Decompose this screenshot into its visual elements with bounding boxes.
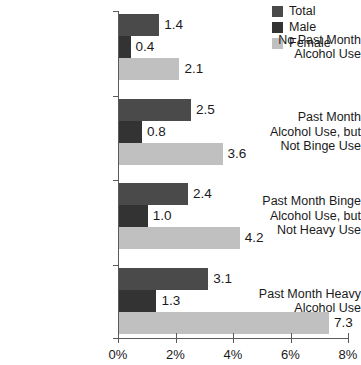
x-tick-label-4%: 4% [224, 347, 243, 362]
bar-female-2 [119, 143, 223, 165]
plot-area: 1.40.42.12.50.83.62.41.04.23.11.37.3 0%2… [118, 11, 348, 338]
bar-total-2 [119, 99, 191, 121]
bar-value-total-1: 1.4 [164, 14, 183, 36]
x-tick-label-2%: 2% [166, 347, 185, 362]
bar-value-female-3: 4.2 [245, 227, 264, 249]
bar-value-total-3: 2.4 [193, 183, 212, 205]
y-tick-0 [113, 11, 119, 12]
y-tick-1 [113, 96, 119, 97]
bar-value-total-4: 3.1 [213, 268, 232, 290]
bar-male-2 [119, 121, 142, 143]
x-tick-label-8%: 8% [339, 347, 358, 362]
bar-male-3 [119, 205, 148, 227]
bar-value-male-1: 0.4 [136, 36, 155, 58]
bar-male-4 [119, 290, 156, 312]
bar-value-male-4: 1.3 [161, 290, 180, 312]
bar-value-male-2: 0.8 [147, 121, 166, 143]
bar-male-1 [119, 36, 131, 58]
bar-total-4 [119, 268, 208, 290]
x-tick-4% [233, 333, 234, 343]
y-tick-4 [113, 338, 119, 339]
bar-value-female-1: 2.1 [184, 58, 203, 80]
x-tick-8% [348, 333, 349, 343]
x-tick-6% [291, 333, 292, 343]
bar-chart: Total Male Female No Past MonthAlcohol U… [0, 0, 361, 365]
bar-female-1 [119, 58, 179, 80]
y-tick-3 [113, 265, 119, 266]
x-tick-label-0%: 0% [109, 347, 128, 362]
bar-value-total-2: 2.5 [196, 99, 215, 121]
x-tick-2% [176, 333, 177, 343]
bar-value-female-4: 7.3 [334, 312, 353, 334]
bar-female-4 [119, 312, 329, 334]
y-tick-2 [113, 180, 119, 181]
bar-value-male-3: 1.0 [153, 205, 172, 227]
bar-female-3 [119, 227, 240, 249]
x-tick-label-6%: 6% [281, 347, 300, 362]
bar-total-1 [119, 14, 159, 36]
bar-total-3 [119, 183, 188, 205]
bar-value-female-2: 3.6 [228, 143, 247, 165]
